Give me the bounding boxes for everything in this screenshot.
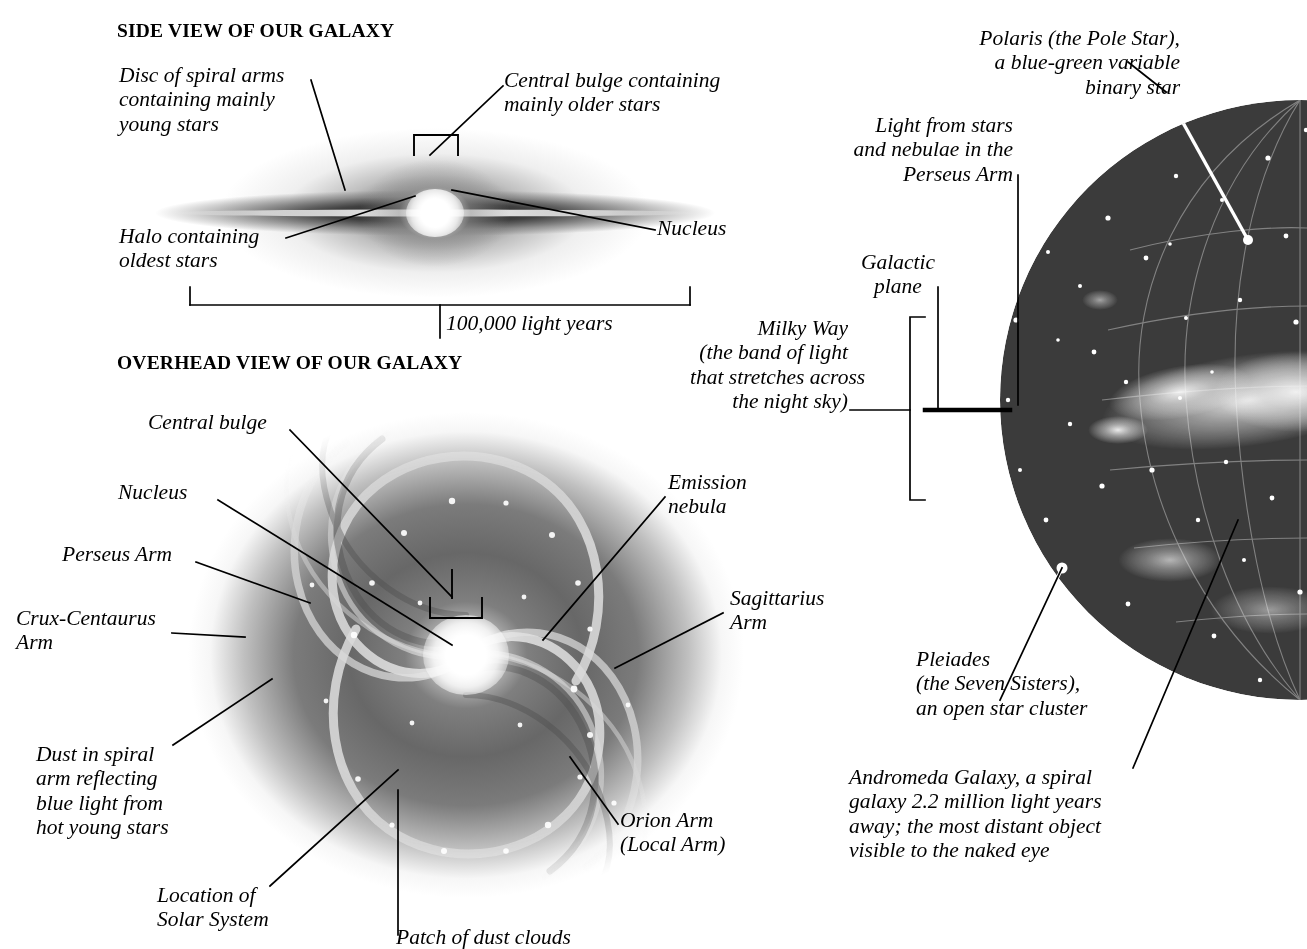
galaxy-nucleus-core <box>406 189 464 237</box>
label-disc-of-spiral-arms: Disc of spiral arms containing mainly yo… <box>119 63 284 136</box>
label-crux-centaurus-arm: Crux-Centaurus Arm <box>16 606 156 655</box>
label-pleiades: Pleiades (the Seven Sisters), an open st… <box>916 647 1087 720</box>
label-halo: Halo containing oldest stars <box>119 224 259 273</box>
label-andromeda: Andromeda Galaxy, a spiral galaxy 2.2 mi… <box>849 765 1102 862</box>
label-dust-in-spiral-arm: Dust in spiral arm reflecting blue light… <box>36 742 169 839</box>
stars <box>1006 94 1307 688</box>
label-nucleus-overhead: Nucleus <box>118 480 187 504</box>
label-perseus-arm-light: Light from stars and nebulae in the Pers… <box>760 113 1013 186</box>
label-location-of-solar-system: Location of Solar System <box>157 883 269 932</box>
label-patch-of-dust-clouds: Patch of dust clouds <box>396 925 571 949</box>
celestial-sphere <box>1000 92 1307 700</box>
label-galactic-plane: Galactic plane <box>843 250 953 299</box>
label-milky-way: Milky Way (the band of light that stretc… <box>690 316 848 413</box>
overhead-view-heading: OVERHEAD VIEW OF OUR GALAXY <box>117 352 462 374</box>
side-view-galaxy-illustration <box>150 118 720 308</box>
sphere-pointer-lines <box>1000 92 1248 700</box>
galaxy-nucleus-bright-core <box>423 615 509 695</box>
label-sagittarius-arm: Sagittarius Arm <box>730 586 824 635</box>
leader-galactic-plane <box>925 287 1010 410</box>
label-emission-nebula: Emission nebula <box>668 470 747 519</box>
label-scale-bar: 100,000 light years <box>446 311 613 335</box>
label-nucleus-side: Nucleus <box>657 216 726 240</box>
bracket-milky-way <box>850 317 925 500</box>
milky-way-band <box>1082 290 1307 634</box>
label-perseus-arm: Perseus Arm <box>62 542 172 566</box>
label-central-bulge-overhead: Central bulge <box>148 410 267 434</box>
side-view-heading: SIDE VIEW OF OUR GALAXY <box>117 20 394 42</box>
leader-andromeda <box>1133 520 1238 768</box>
label-central-bulge-side: Central bulge containing mainly older st… <box>504 68 720 117</box>
label-polaris: Polaris (the Pole Star), a blue-green va… <box>860 26 1180 99</box>
coordinate-grid <box>1102 100 1307 700</box>
label-orion-arm: Orion Arm (Local Arm) <box>620 808 725 857</box>
